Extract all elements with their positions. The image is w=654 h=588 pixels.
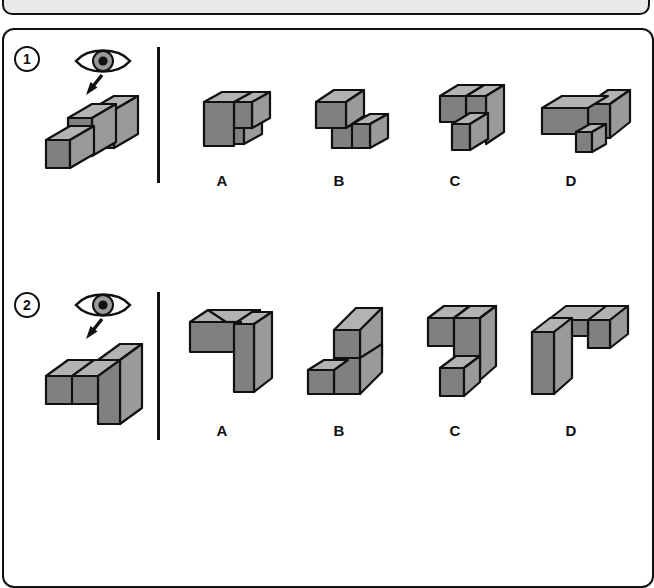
option-a-solid[interactable] [186,302,290,412]
option-d-solid[interactable] [532,82,636,166]
question-number-1: 1 [14,46,40,72]
row-divider-1 [157,47,160,183]
question-number-2: 2 [14,292,40,318]
option-label-d-row2: D [556,422,586,439]
option-b-solid[interactable] [306,82,406,166]
option-label-c-row1: C [440,172,470,189]
option-label-a-row2: A [207,422,237,439]
option-a-solid[interactable] [190,82,286,164]
row-divider-2 [157,292,160,440]
option-label-a-row1: A [207,172,237,189]
option-label-c-row2: C [440,422,470,439]
option-d-solid[interactable] [530,290,638,410]
option-c-solid[interactable] [422,296,522,412]
option-label-b-row2: B [324,422,354,439]
option-label-b-row1: B [324,172,354,189]
option-c-solid[interactable] [422,76,518,166]
option-b-solid[interactable] [306,296,406,412]
option-label-d-row1: D [556,172,586,189]
reference-solid-1 [38,88,148,178]
reference-solid-2 [36,332,152,432]
top-banner-bar [2,0,650,15]
